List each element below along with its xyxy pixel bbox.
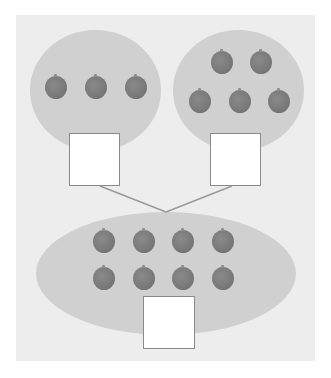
right-answer-box[interactable]: [210, 133, 261, 186]
apple-icon: [45, 76, 67, 99]
apple-icon: [212, 267, 234, 290]
apple-icon: [212, 230, 234, 253]
apple-icon: [133, 230, 155, 253]
apple-icon: [268, 90, 290, 113]
apple-icon: [172, 267, 194, 290]
apple-icon: [85, 76, 107, 99]
whole-answer-box[interactable]: [143, 296, 195, 349]
apple-icon: [211, 51, 233, 74]
apple-icon: [172, 230, 194, 253]
apple-icon: [189, 90, 211, 113]
apple-icon: [93, 267, 115, 290]
left-answer-box[interactable]: [69, 133, 120, 186]
apple-icon: [125, 76, 147, 99]
apple-icon: [250, 51, 272, 74]
apple-icon: [133, 267, 155, 290]
apple-icon: [229, 90, 251, 113]
apple-icon: [93, 230, 115, 253]
